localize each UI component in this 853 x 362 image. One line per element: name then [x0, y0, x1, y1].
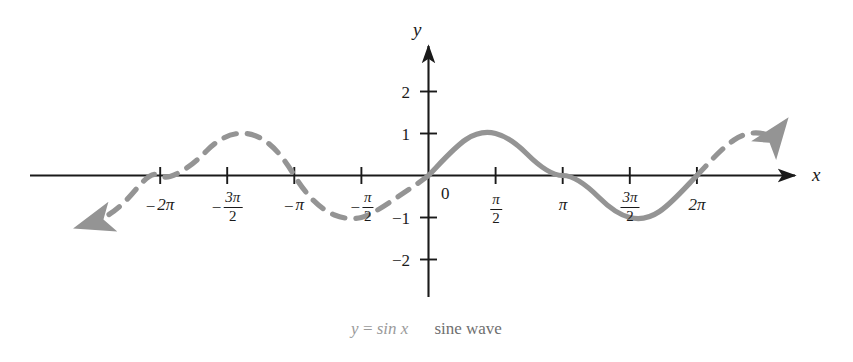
minus-sign: − [350, 199, 360, 216]
fraction-denominator: 2 [362, 208, 374, 225]
fraction-pi-over-2: π2 [362, 190, 374, 224]
fraction-denominator: 2 [620, 208, 639, 225]
sine-wave-plot [0, 0, 853, 362]
ytick-label-2: 2 [386, 84, 410, 101]
origin-label: 0 [441, 185, 450, 202]
sine-curve-dashed-right [697, 132, 778, 176]
y-axis-label: y [413, 20, 421, 39]
minus-sign: − [212, 199, 222, 216]
caption-name: sine wave [434, 319, 502, 338]
xtick-label-pi-over-2: π2 [490, 192, 502, 226]
ytick-label-neg2: −2 [380, 252, 410, 269]
xtick-label-3pi-over-2: 3π2 [620, 190, 639, 224]
fraction-pi-over-2: π2 [490, 192, 502, 226]
fraction-denominator: 2 [490, 210, 502, 227]
ytick-label-1: 1 [386, 126, 410, 143]
xtick-label-pi: π [559, 196, 568, 213]
pi-glyph: π [296, 195, 305, 214]
xtick-label-2pi: 2π [688, 196, 705, 213]
xtick-label-neg-2pi: −2π [146, 196, 175, 215]
fraction-3pi-over-2: 3π2 [223, 190, 242, 224]
fraction-numerator: 3π [620, 190, 639, 208]
minus-sign: − [146, 198, 156, 215]
fraction-numerator: π [362, 190, 374, 208]
figure-caption: y = sin xsine wave [0, 320, 853, 337]
sine-wave-figure: y x 0 2 1 −1 −2 −2π −3π2 −π −π2 π2 π 3π2… [0, 0, 853, 362]
pi-glyph: π [559, 195, 568, 214]
two-pi-glyph: 2π [688, 195, 705, 214]
xtick-label-neg-pi: −π [284, 196, 304, 215]
ytick-label-neg1: −1 [380, 210, 410, 227]
sine-curve-dashed-left [90, 133, 429, 223]
xtick-label-neg-3pi-over-2: −3π2 [212, 190, 243, 224]
minus-sign: − [284, 198, 294, 215]
two-pi-glyph: 2π [157, 195, 174, 214]
caption-equation-operator: = [359, 319, 377, 338]
caption-equation: y = sin x [351, 319, 408, 338]
fraction-numerator: 3π [223, 190, 242, 208]
caption-equation-y: y [351, 319, 359, 338]
xtick-label-neg-pi-over-2: −π2 [350, 190, 373, 224]
fraction-denominator: 2 [223, 208, 242, 225]
x-axis-label: x [812, 165, 820, 184]
caption-equation-rhs: sin x [377, 319, 409, 338]
fraction-3pi-over-2: 3π2 [620, 190, 639, 224]
fraction-numerator: π [490, 192, 502, 210]
